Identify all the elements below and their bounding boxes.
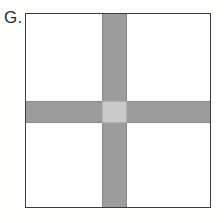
band-intersection-square xyxy=(102,101,127,123)
figure-container: G. xyxy=(0,0,224,223)
shape-square-outline xyxy=(25,13,211,208)
figure-label: G. xyxy=(4,8,23,27)
